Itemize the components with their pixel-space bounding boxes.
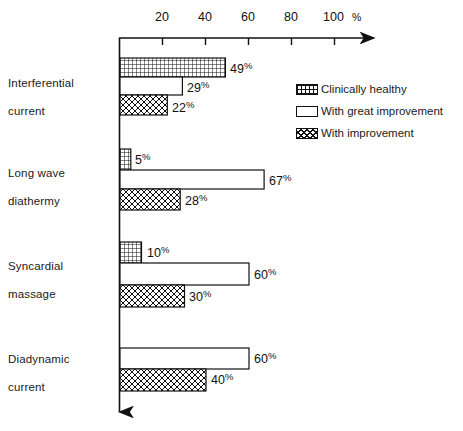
legend-item-improvement: With improvement bbox=[296, 122, 460, 144]
bar-g3-improvement bbox=[120, 369, 206, 391]
percent-glyph: % bbox=[161, 244, 169, 255]
legend-label-improvement: With improvement bbox=[321, 127, 414, 139]
bar-label-g1-s0-number: 5 bbox=[135, 153, 142, 167]
legend-label-great-improvement: With great improvement bbox=[321, 105, 443, 117]
percent-glyph: % bbox=[268, 350, 276, 361]
bar-g1-improvement bbox=[120, 189, 180, 210]
bar-g0-clinically-healthy bbox=[120, 58, 225, 77]
bar-label-g0-s2-number: 22 bbox=[172, 101, 186, 115]
xtick-label-60: 60 bbox=[241, 10, 255, 24]
percent-glyph: % bbox=[203, 288, 211, 299]
bar-label-g2-clinically-healthy: 10% bbox=[147, 244, 169, 260]
bar-g2-improvement bbox=[120, 285, 185, 307]
percent-glyph: % bbox=[142, 151, 150, 162]
bar-label-g2-s0-number: 10 bbox=[147, 246, 161, 260]
cat2-line2: massage bbox=[8, 288, 56, 300]
category-label-long-wave-diathermy: Long wave diathermy bbox=[8, 152, 65, 208]
legend-item-great-improvement: With great improvement bbox=[296, 100, 460, 122]
cat0-line1: Interferential bbox=[8, 77, 74, 89]
cat3-line1: Diadynamic bbox=[8, 353, 70, 365]
legend-swatch-grid-icon bbox=[296, 84, 318, 95]
chart-legend: Clinically healthy With great improvemen… bbox=[296, 78, 460, 144]
bar-label-g3-great-improvement: 60% bbox=[254, 350, 276, 366]
cat3-line2: current bbox=[8, 381, 45, 393]
category-label-syncardial-massage: Syncardial massage bbox=[8, 245, 63, 301]
bar-g1-great-improvement bbox=[120, 170, 264, 189]
percent-glyph: % bbox=[186, 99, 194, 110]
category-label-interferential-current: Interferential current bbox=[8, 62, 74, 118]
bar-g0-great-improvement bbox=[120, 77, 182, 95]
percent-glyph: % bbox=[283, 172, 291, 183]
bar-g1-clinically-healthy bbox=[120, 149, 131, 170]
cat0-line2: current bbox=[8, 105, 45, 117]
legend-label-clinically-healthy: Clinically healthy bbox=[321, 83, 407, 95]
bar-label-g0-s1-number: 29 bbox=[187, 81, 201, 95]
bar-label-g1-s2-number: 28 bbox=[185, 194, 199, 208]
percent-glyph: % bbox=[201, 79, 209, 90]
xtick-label-100: 100 bbox=[323, 10, 344, 24]
bar-label-g1-clinically-healthy: 5% bbox=[135, 151, 150, 167]
axis-unit-label: % bbox=[352, 11, 361, 23]
bar-label-g1-s1-number: 67 bbox=[269, 174, 283, 188]
legend-item-clinically-healthy: Clinically healthy bbox=[296, 78, 460, 100]
cat1-line2: diathermy bbox=[8, 195, 60, 207]
x-axis-ticks bbox=[163, 38, 335, 45]
bar-label-g3-s1-number: 60 bbox=[254, 352, 268, 366]
xtick-label-20: 20 bbox=[155, 10, 169, 24]
bar-label-g2-great-improvement: 60% bbox=[254, 266, 276, 282]
category-label-diadynamic-current: Diadynamic current bbox=[8, 338, 70, 394]
bar-g0-improvement bbox=[120, 95, 167, 115]
legend-swatch-plain-icon bbox=[296, 106, 318, 117]
bar-label-g3-improvement: 40% bbox=[211, 371, 233, 387]
percent-glyph: % bbox=[244, 60, 252, 71]
bar-chart: 20 40 60 80 100 % Interferential current… bbox=[0, 0, 463, 431]
legend-swatch-cross-icon bbox=[296, 128, 318, 139]
bar-label-g2-s1-number: 60 bbox=[254, 268, 268, 282]
cat1-line1: Long wave bbox=[8, 167, 65, 179]
bar-label-g1-great-improvement: 67% bbox=[269, 172, 291, 188]
cat2-line1: Syncardial bbox=[8, 260, 63, 272]
percent-glyph: % bbox=[268, 266, 276, 277]
bar-label-g0-s0-number: 49 bbox=[230, 62, 244, 76]
bar-g2-great-improvement bbox=[120, 263, 249, 285]
bar-label-g0-great-improvement: 29% bbox=[187, 79, 209, 95]
bar-label-g2-improvement: 30% bbox=[189, 288, 211, 304]
bar-g2-clinically-healthy bbox=[120, 242, 142, 263]
xtick-label-40: 40 bbox=[198, 10, 212, 24]
bar-g3-great-improvement bbox=[120, 348, 249, 369]
bar-label-g2-s2-number: 30 bbox=[189, 290, 203, 304]
percent-glyph: % bbox=[199, 192, 207, 203]
bar-label-g3-s2-number: 40 bbox=[211, 373, 225, 387]
bar-label-g0-clinically-healthy: 49% bbox=[230, 60, 252, 76]
xtick-label-80: 80 bbox=[284, 10, 298, 24]
bar-label-g1-improvement: 28% bbox=[185, 192, 207, 208]
percent-glyph: % bbox=[225, 371, 233, 382]
bar-label-g0-improvement: 22% bbox=[172, 99, 194, 115]
